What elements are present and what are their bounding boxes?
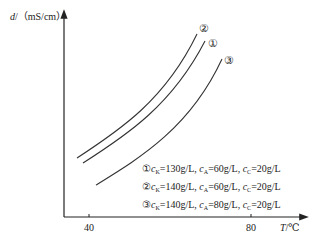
legend-value-c: =20g/L (251, 199, 281, 210)
legend-value-a: =80g/L, (208, 199, 243, 210)
legend-value-c: =20g/L (251, 163, 281, 174)
x-tick-label-80: 80 (246, 222, 256, 233)
curve-label-1: ① (208, 37, 218, 49)
legend-marker-1: ① (142, 163, 151, 174)
curve-1 (83, 41, 205, 163)
legend-value-k: =140g/L, (160, 181, 200, 192)
curve-2 (77, 34, 197, 158)
legend-item-2: ②cK=140g/L, cA=60g/L, cC=20g/L (142, 180, 281, 197)
x-axis-label: T/℃ (280, 222, 300, 233)
curve-label-3: ③ (224, 54, 234, 66)
x-axis-label-unit: /℃ (286, 222, 300, 233)
legend-value-a: =60g/L, (208, 163, 243, 174)
legend-marker-3: ③ (142, 199, 151, 210)
y-axis-label-unit: /（mS/cm） (15, 11, 66, 22)
legend-marker-2: ② (142, 181, 151, 192)
y-axis-label: d/（mS/cm） (10, 11, 66, 22)
legend-item-3: ③cK=140g/L, cA=80g/L, cC=20g/L (142, 198, 281, 215)
legend-value-k: =130g/L, (160, 163, 200, 174)
legend-value-a: =60g/L, (208, 181, 243, 192)
legend-item-1: ①cK=130g/L, cA=60g/L, cC=20g/L (142, 162, 281, 179)
legend-value-k: =140g/L, (160, 199, 200, 210)
curve-label-2: ② (199, 22, 209, 34)
legend-value-c: =20g/L (251, 181, 281, 192)
x-tick-label-40: 40 (84, 222, 94, 233)
